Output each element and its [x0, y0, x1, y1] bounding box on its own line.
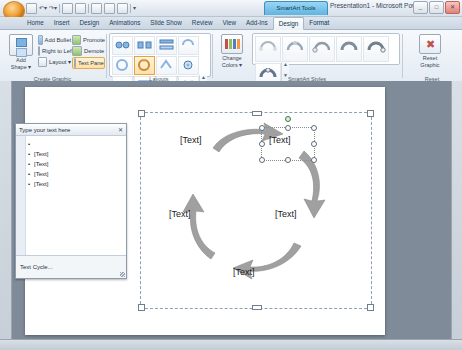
text-pane-footer: Text Cycle... [16, 256, 126, 278]
tab-animations[interactable]: Animations [104, 17, 145, 29]
text-pane-item-4[interactable]: •[Text] [28, 179, 123, 189]
styles-scroll-up-icon[interactable]: ▲ [283, 62, 288, 67]
tab-design[interactable]: Design [75, 17, 105, 29]
promote-button[interactable]: Promote [72, 35, 105, 45]
add-shape-button[interactable]: Add Shape ▾ [4, 34, 38, 72]
tab-slide-show[interactable]: Slide Show [145, 17, 187, 29]
node-label-bottom[interactable]: [Text] [233, 267, 255, 277]
reset-graphic-button[interactable]: ✖ Reset Graphic [414, 34, 446, 68]
workspace: [Text] [Text] [Text] [Text] [Text] [0, 81, 462, 350]
text-pane-title: Type your text here [19, 127, 70, 133]
text-pane-item-2[interactable]: •[Text] [28, 159, 123, 169]
tab-view[interactable]: View [217, 17, 241, 29]
text-pane[interactable]: Type your text here ✕ • •[Text] •[Text] … [15, 123, 127, 279]
smartart-frame[interactable]: [Text] [Text] [Text] [Text] [Text] [140, 112, 372, 309]
group-reset: ✖ Reset Graphic Reset [404, 30, 460, 82]
text-pane-close-icon[interactable]: ✕ [118, 126, 123, 133]
text-pane-icon [74, 58, 76, 68]
node-handle-top-left[interactable] [259, 125, 265, 131]
slides-pane-strip [0, 81, 12, 350]
change-colors-label-line1: Change [216, 55, 248, 61]
add-bullet-label: Add Bullet [45, 37, 71, 43]
layout-thumb-1[interactable] [112, 36, 133, 55]
text-pane-toggle[interactable]: Text Pane [72, 57, 105, 69]
node-handle-bottom-right[interactable] [311, 157, 317, 163]
text-pane-item-0[interactable]: • [28, 139, 123, 149]
text-pane-list[interactable]: • •[Text] •[Text] •[Text] •[Text] [28, 139, 123, 189]
layout-thumb-8[interactable] [178, 56, 199, 75]
promote-icon [72, 35, 81, 45]
tab-home[interactable]: Home [22, 17, 49, 29]
text-pane-item-3[interactable]: •[Text] [28, 169, 123, 179]
layout-thumb-6-selected[interactable] [134, 56, 155, 75]
layout-thumb-5[interactable] [112, 56, 133, 75]
quick-access-toolbar[interactable]: ↶▾ ↷▾ ▾ [26, 3, 136, 14]
node-handle-top-right[interactable] [311, 125, 317, 131]
add-shape-icon [9, 34, 33, 56]
node-handle-top[interactable] [285, 125, 291, 131]
demote-label: Demote [84, 48, 104, 54]
node-label-right[interactable]: [Text] [275, 209, 297, 219]
qat-customize-chevron-icon[interactable]: ▾ [133, 4, 136, 13]
title-bar: ↶▾ ↷▾ ▾ SmartArt Tools Presentation1 - M… [0, 0, 462, 17]
style-thumb-4[interactable] [336, 36, 362, 62]
slide-canvas[interactable]: [Text] [Text] [Text] [Text] [Text] [25, 87, 385, 335]
node-label-left[interactable]: [Text] [169, 209, 191, 219]
layout-icon [38, 57, 47, 67]
demote-button[interactable]: Demote [72, 46, 105, 56]
node-handle-left[interactable] [259, 141, 265, 147]
qat-extra-icon-1[interactable] [62, 3, 73, 14]
add-bullet-button[interactable]: Add Bullet [38, 35, 71, 45]
smartart-styles-gallery[interactable]: ▲ ▼ ▾ [252, 33, 400, 65]
right-to-left-icon [38, 46, 40, 56]
style-thumb-1[interactable] [255, 36, 281, 62]
change-colors-button[interactable]: Change Colors ▾ [216, 34, 248, 68]
tab-review[interactable]: Review [187, 17, 218, 29]
style-thumb-5[interactable] [363, 36, 389, 62]
group-create-graphic: Add Shape ▾ Add Bullet Right to Left Lay… [0, 30, 105, 82]
selected-node-outline[interactable] [261, 127, 315, 161]
text-pane-body[interactable]: • •[Text] •[Text] •[Text] •[Text] [16, 136, 126, 256]
undo-icon[interactable]: ↶▾ [39, 4, 47, 13]
node-label-top-left[interactable]: [Text] [180, 135, 202, 145]
qat-extra-icon-2[interactable] [75, 3, 86, 14]
redo-icon[interactable]: ↷▾ [49, 4, 57, 13]
tab-insert[interactable]: Insert [49, 17, 75, 29]
contextual-tab-title: SmartArt Tools [264, 1, 328, 15]
layouts-gallery[interactable]: ▲ ▼ ▾ [109, 33, 211, 77]
close-button[interactable]: ✕ [445, 1, 460, 14]
qat-extra-icon-3[interactable] [91, 3, 102, 14]
node-handle-bottom-left[interactable] [259, 157, 265, 163]
qat-separator [59, 4, 60, 13]
node-handle-right[interactable] [311, 141, 317, 147]
save-icon[interactable] [26, 3, 37, 14]
tab-smartart-format[interactable]: Format [304, 17, 334, 29]
layout-thumb-7[interactable] [156, 56, 177, 75]
qat-separator-3 [130, 4, 131, 13]
qat-extra-icon-5[interactable] [117, 3, 128, 14]
text-pane-item-label-3: [Text] [34, 171, 48, 177]
text-pane-item-1[interactable]: •[Text] [28, 149, 123, 159]
layout-button[interactable]: Layout ▾ [38, 57, 71, 67]
add-bullet-icon [38, 35, 43, 45]
change-colors-label-line2: Colors ▾ [216, 62, 248, 68]
text-pane-resize-handle[interactable] [120, 272, 125, 277]
tab-add-ins[interactable]: Add-Ins [241, 17, 273, 29]
node-handle-bottom[interactable] [285, 157, 291, 163]
style-thumb-3[interactable] [309, 36, 335, 62]
node-rotate-handle[interactable] [285, 116, 291, 122]
tab-smartart-design[interactable]: Design [273, 17, 305, 30]
reset-graphic-label-line2: Graphic [414, 62, 446, 68]
layout-thumb-2[interactable] [134, 36, 155, 55]
maximize-button[interactable]: □ [429, 1, 444, 14]
right-to-left-button[interactable]: Right to Left [38, 46, 71, 56]
ribbon-separator-3 [402, 34, 403, 78]
text-pane-gutter [16, 136, 26, 255]
minimize-button[interactable]: _ [413, 1, 428, 14]
style-thumb-2[interactable] [282, 36, 308, 62]
layout-thumb-4[interactable] [178, 36, 199, 55]
layout-thumb-3[interactable] [156, 36, 177, 55]
ribbon-separator-2 [212, 34, 213, 78]
text-pane-header: Type your text here ✕ [16, 124, 126, 136]
qat-extra-icon-4[interactable] [104, 3, 115, 14]
